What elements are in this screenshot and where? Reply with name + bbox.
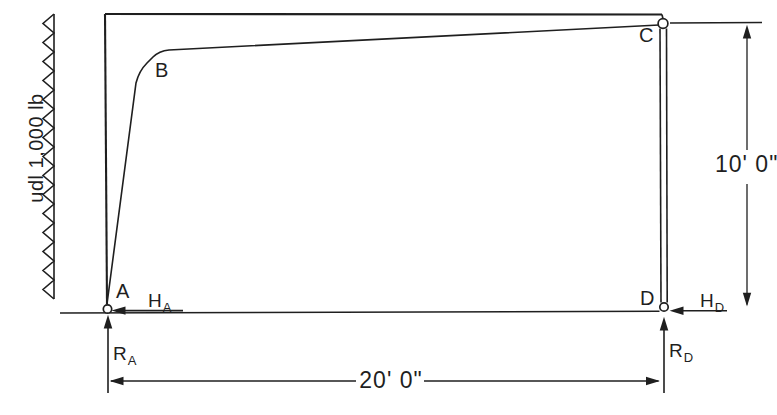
ground-line xyxy=(60,311,660,313)
reaction-label-hd: HD xyxy=(700,291,723,310)
udl-load-label: udl 1,000 lb xyxy=(26,93,46,202)
hinge-c xyxy=(658,19,668,29)
node-label-a: A xyxy=(116,281,129,301)
reaction-label-rd: RD xyxy=(669,341,692,360)
deflected-shape xyxy=(107,25,659,304)
frame-diagram: udl 1,000 lb A B C D HA HD RA RD 10' 0" … xyxy=(0,0,777,415)
node-label-c: C xyxy=(639,25,653,45)
force-subscript: D xyxy=(684,350,693,365)
hinge-d xyxy=(660,303,668,311)
node-label-b: B xyxy=(155,60,168,80)
force-symbol: H xyxy=(148,290,162,311)
rd-arrow xyxy=(660,317,669,393)
hinge-a xyxy=(103,305,111,313)
frame-outline xyxy=(105,14,667,305)
force-symbol: R xyxy=(113,343,127,364)
force-subscript: A xyxy=(128,353,137,368)
force-symbol: R xyxy=(669,340,683,361)
node-label-d: D xyxy=(640,288,654,308)
height-dimension-label: 10' 0" xyxy=(715,153,777,176)
reaction-label-ra: RA xyxy=(113,344,135,363)
force-subscript: D xyxy=(715,300,724,315)
width-dimension-label: 20' 0" xyxy=(343,369,439,392)
force-subscript: A xyxy=(163,300,172,315)
reaction-label-ha: HA xyxy=(148,291,170,310)
force-symbol: H xyxy=(700,290,714,311)
